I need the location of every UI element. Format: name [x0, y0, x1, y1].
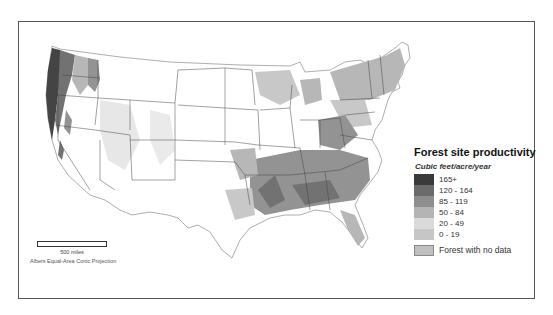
legend-title: Forest site productivity — [414, 146, 534, 158]
legend-swatch — [414, 245, 434, 256]
legend-class-20-49: 20 - 49 — [414, 218, 534, 229]
legend-class-no-data: Forest with no data — [414, 244, 534, 256]
legend-swatch — [414, 174, 434, 185]
legend-class-85-119: 85 - 119 — [414, 196, 534, 207]
legend-swatch — [414, 185, 434, 196]
projection-note: Albers Equal-Area Conic Projection — [30, 258, 116, 264]
scale-bar: 500 miles — [37, 241, 107, 255]
legend-label: 50 - 84 — [439, 208, 464, 217]
legend: Forest site productivity Cubic feet/acre… — [414, 146, 534, 256]
legend-class-0-19: 0 - 19 — [414, 229, 534, 240]
legend-class-120-164: 120 - 164 — [414, 185, 534, 196]
legend-units: Cubic feet/acre/year — [415, 162, 534, 171]
legend-label: Forest with no data — [439, 245, 511, 255]
legend-swatch — [414, 218, 434, 229]
legend-label: 85 - 119 — [439, 197, 468, 206]
legend-swatch — [414, 196, 434, 207]
legend-label: 0 - 19 — [439, 230, 459, 239]
legend-swatch — [414, 229, 434, 240]
legend-class-165-plus: 165+ — [414, 174, 534, 185]
legend-label: 20 - 49 — [439, 219, 464, 228]
legend-label: 165+ — [439, 175, 457, 184]
legend-swatch — [414, 207, 434, 218]
scale-bar-graphic — [37, 241, 107, 247]
legend-class-50-84: 50 - 84 — [414, 207, 534, 218]
legend-label: 120 - 164 — [439, 186, 473, 195]
scale-label: 500 miles — [37, 249, 107, 255]
